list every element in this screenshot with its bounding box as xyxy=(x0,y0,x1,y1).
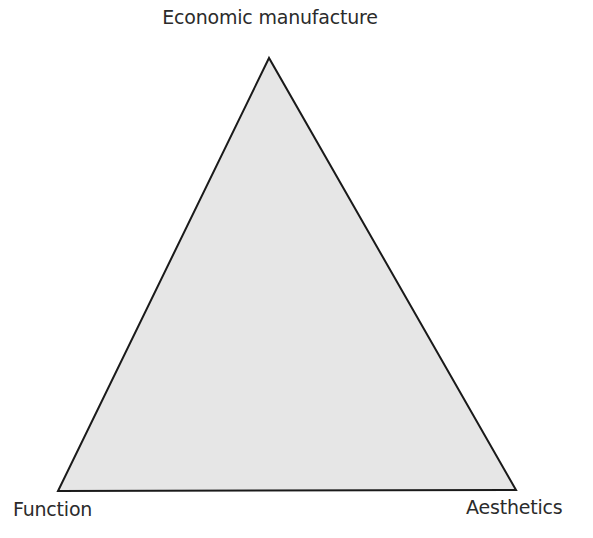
triangle-polygon xyxy=(58,58,516,491)
design-triangle-diagram: Economic manufacture Function Aesthetics xyxy=(0,0,593,538)
vertex-label-aesthetics: Aesthetics xyxy=(466,496,563,518)
vertex-label-economic-manufacture: Economic manufacture xyxy=(148,6,392,28)
triangle-shape xyxy=(0,0,593,538)
vertex-label-function: Function xyxy=(13,498,92,520)
